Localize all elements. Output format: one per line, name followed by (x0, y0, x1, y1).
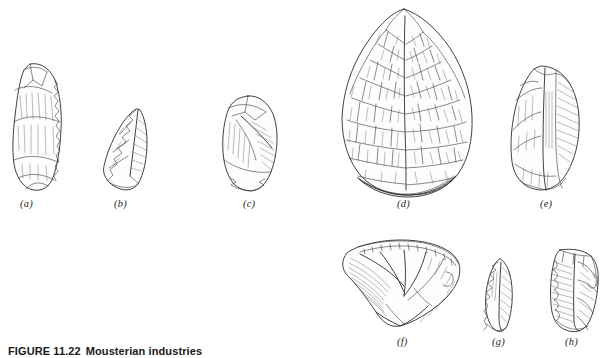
artifact-a-drawing (13, 64, 61, 191)
artifact-c-drawing (223, 96, 277, 191)
artifact-label-c: (c) (243, 198, 255, 209)
artifact-f-drawing (343, 240, 460, 326)
artifact-d-drawing (342, 9, 472, 197)
figure-plate: (a) (b) (c) (d) (e) (f) (g) (h) FIGURE 1… (0, 0, 615, 358)
figure-caption: FIGURE 11.22Mousterian industries (8, 345, 202, 357)
artifact-g-drawing (484, 259, 512, 331)
artifact-label-g: (g) (492, 336, 505, 347)
artifact-label-d: (d) (397, 198, 410, 209)
figure-number: FIGURE 11.22 (8, 345, 81, 357)
artifact-label-b: (b) (114, 198, 127, 209)
artifact-e-drawing (511, 66, 579, 190)
figure-caption-text: Mousterian industries (86, 345, 202, 357)
artifact-label-e: (e) (540, 198, 552, 209)
artifact-label-a: (a) (20, 198, 33, 209)
artifact-b-drawing (104, 109, 147, 190)
artifact-h-drawing (551, 249, 599, 331)
artifact-label-f: (f) (397, 336, 408, 347)
artifact-illustrations (0, 0, 615, 358)
artifact-label-h: (h) (565, 336, 578, 347)
